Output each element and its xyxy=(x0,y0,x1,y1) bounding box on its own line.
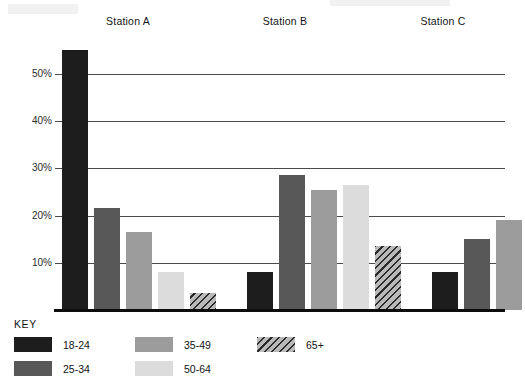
gridline-50 xyxy=(62,74,505,75)
group-label-station-a: Station A xyxy=(106,15,150,27)
y-axis-label-10%: 10% xyxy=(32,258,52,268)
y-axis-tick-30 xyxy=(55,168,62,169)
legend-label-35-49: 35-49 xyxy=(184,339,211,351)
legend-item-18-24: 18-24 xyxy=(14,337,90,352)
legend-item-25-34: 25-34 xyxy=(14,361,90,376)
legend: KEY 18-24 25-34 35-49 50-64 65+ xyxy=(14,318,514,388)
legend-item-50-64: 50-64 xyxy=(135,361,211,376)
legend-item-35-49: 35-49 xyxy=(135,337,211,352)
legend-swatch-icon-50-64 xyxy=(135,361,173,376)
bar-station-b-65-plus xyxy=(375,246,401,310)
legend-label-25-34: 25-34 xyxy=(63,363,90,375)
legend-label-65-plus: 65+ xyxy=(306,339,324,351)
legend-label-18-24: 18-24 xyxy=(63,339,90,351)
bar-station-b-50-64 xyxy=(343,185,369,310)
bar-station-b-25-34 xyxy=(279,175,305,310)
y-axis-tick-40 xyxy=(55,121,62,122)
bar-station-a-35-49 xyxy=(126,232,152,310)
bar-station-c-35-49 xyxy=(496,220,522,310)
legend-swatch-icon-25-34 xyxy=(14,361,52,376)
bar-station-b-18-24 xyxy=(247,272,273,310)
x-axis-baseline xyxy=(54,309,505,312)
y-axis-label-30%: 30% xyxy=(32,163,52,173)
y-axis-label-20%: 20% xyxy=(32,211,52,221)
group-label-station-b: Station B xyxy=(263,15,307,27)
bar-chart: Station A Station B Station C 10%20%30%4… xyxy=(0,0,525,392)
legend-swatch-icon-35-49 xyxy=(135,337,173,352)
legend-swatch-icon-65-plus xyxy=(257,337,295,352)
bar-station-a-18-24 xyxy=(62,50,88,310)
legend-label-50-64: 50-64 xyxy=(184,363,211,375)
bar-station-c-25-34 xyxy=(464,239,490,310)
bar-station-a-65-plus xyxy=(190,293,216,310)
y-axis-label-50%: 50% xyxy=(32,69,52,79)
bar-station-b-35-49 xyxy=(311,190,337,310)
scan-artifact xyxy=(8,4,78,14)
group-label-station-c: Station C xyxy=(421,15,466,27)
gridline-40 xyxy=(62,121,505,122)
gridline-30 xyxy=(62,168,505,169)
bar-station-c-18-24 xyxy=(432,272,458,310)
scan-artifact xyxy=(330,0,450,6)
y-axis-tick-20 xyxy=(55,216,62,217)
legend-swatch-icon-18-24 xyxy=(14,337,52,352)
plot-area: 10%20%30%40%50% xyxy=(62,36,505,310)
y-axis-label-40%: 40% xyxy=(32,116,52,126)
y-axis-tick-50 xyxy=(55,74,62,75)
bar-station-a-25-34 xyxy=(94,208,120,310)
y-axis-tick-10 xyxy=(55,263,62,264)
legend-item-65-plus: 65+ xyxy=(257,337,324,352)
legend-title: KEY xyxy=(14,318,37,330)
bar-station-a-50-64 xyxy=(158,272,184,310)
